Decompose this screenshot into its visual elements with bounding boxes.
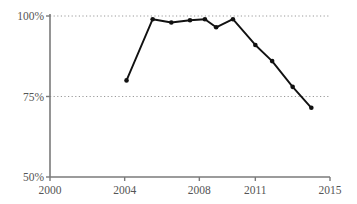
series-1-markers bbox=[124, 17, 313, 110]
x-tick-label-2015: 2015 bbox=[319, 184, 342, 196]
y-axis-tick-labels: 50%75%100% bbox=[17, 10, 44, 183]
data-point bbox=[188, 18, 193, 23]
data-point bbox=[214, 25, 219, 30]
data-point bbox=[124, 78, 129, 83]
gridlines bbox=[50, 16, 330, 97]
data-point bbox=[253, 43, 258, 48]
x-tick-label-2011: 2011 bbox=[244, 184, 267, 196]
x-tick-label-2004: 2004 bbox=[113, 184, 136, 196]
data-point bbox=[231, 17, 236, 22]
line-chart: 50%75%100% 20002004200820112015 bbox=[0, 0, 357, 204]
data-point bbox=[309, 105, 314, 110]
y-tick-label-50: 50% bbox=[23, 171, 45, 183]
y-tick-label-75: 75% bbox=[23, 91, 45, 103]
x-tick-label-2000: 2000 bbox=[39, 184, 62, 196]
chart-container: 50%75%100% 20002004200820112015 bbox=[0, 0, 357, 204]
data-point bbox=[203, 17, 208, 22]
data-series bbox=[124, 17, 313, 110]
series-1-line bbox=[127, 19, 312, 108]
data-point bbox=[169, 20, 174, 25]
x-axis-tick-labels: 20002004200820112015 bbox=[39, 184, 342, 196]
axes bbox=[46, 14, 330, 181]
data-point bbox=[150, 17, 155, 22]
data-point bbox=[290, 85, 295, 90]
y-tick-label-100: 100% bbox=[17, 10, 44, 22]
data-point bbox=[270, 59, 275, 64]
x-tick-label-2008: 2008 bbox=[188, 184, 211, 196]
